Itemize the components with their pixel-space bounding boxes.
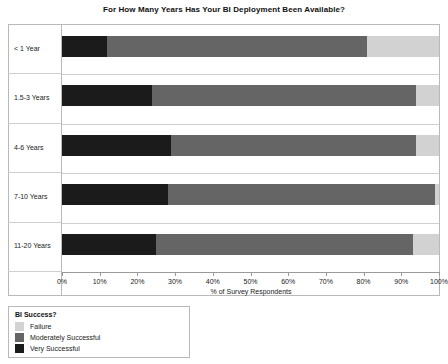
legend-swatch-very-successful — [15, 344, 24, 353]
x-tick — [137, 272, 138, 276]
x-tick-label: 30% — [168, 278, 182, 285]
x-tick — [439, 272, 440, 276]
x-tick — [213, 272, 214, 276]
bar-segment-failure[interactable] — [416, 85, 439, 106]
bar-row — [62, 25, 439, 74]
x-tick-label: 0% — [57, 278, 67, 285]
legend-item-very-successful[interactable]: Very Successful — [15, 343, 183, 354]
bar-segment-moderately-successful[interactable] — [156, 234, 412, 255]
x-tick-label: 70% — [319, 278, 333, 285]
legend-swatch-failure — [15, 322, 24, 331]
x-tick — [62, 272, 63, 276]
x-tick-label: 100% — [430, 278, 448, 285]
bar-segment-moderately-successful[interactable] — [152, 85, 416, 106]
legend-swatch-moderately-successful — [15, 333, 24, 342]
category-label-1: < 1 Year — [14, 45, 40, 52]
x-tick-label: 90% — [394, 278, 408, 285]
stacked-bar[interactable] — [62, 135, 439, 156]
bar-segment-failure[interactable] — [413, 234, 439, 255]
bar-segment-very-successful[interactable] — [62, 234, 156, 255]
bar-segment-very-successful[interactable] — [62, 135, 171, 156]
stacked-bar[interactable] — [62, 85, 439, 106]
category-label-3: 4-6 Years — [14, 144, 44, 151]
x-tick — [288, 272, 289, 276]
bar-row — [62, 173, 439, 222]
bar-segment-moderately-successful[interactable] — [107, 36, 367, 57]
bar-segment-failure[interactable] — [367, 36, 439, 57]
category-label-4: 7-10 Years — [14, 193, 47, 200]
bar-row — [62, 124, 439, 173]
legend-label-moderately-successful: Moderately Successful — [30, 334, 100, 341]
bar-segment-very-successful[interactable] — [62, 85, 152, 106]
x-tick-label: 80% — [357, 278, 371, 285]
chart-title: For How Many Years Has Your BI Deploymen… — [0, 5, 448, 14]
category-label-2: 1.5-3 Years — [14, 94, 49, 101]
stacked-bar[interactable] — [62, 36, 439, 57]
bar-row — [62, 74, 439, 123]
bar-segment-failure[interactable] — [435, 184, 439, 205]
bar-row — [62, 223, 439, 272]
bar-segment-failure[interactable] — [416, 135, 439, 156]
x-tick — [100, 272, 101, 276]
stacked-bar[interactable] — [62, 234, 439, 255]
bar-segment-very-successful[interactable] — [62, 36, 107, 57]
x-tick-label: 10% — [93, 278, 107, 285]
bar-segment-very-successful[interactable] — [62, 184, 168, 205]
bar-segment-moderately-successful[interactable] — [168, 184, 436, 205]
legend: BI Success? Failure Moderately Successfu… — [8, 306, 190, 358]
stacked-bar[interactable] — [62, 184, 439, 205]
x-tick — [401, 272, 402, 276]
x-tick — [364, 272, 365, 276]
x-axis-title: % of Survey Respondents — [62, 288, 440, 295]
plot-area — [62, 25, 439, 272]
legend-item-failure[interactable]: Failure — [15, 321, 183, 332]
category-label-strip: < 1 Year1.5-3 Years4-6 Years7-10 Years11… — [8, 24, 62, 296]
x-tick — [251, 272, 252, 276]
legend-label-very-successful: Very Successful — [30, 345, 80, 352]
legend-item-moderately-successful[interactable]: Moderately Successful — [15, 332, 183, 343]
bar-segment-moderately-successful[interactable] — [171, 135, 416, 156]
x-tick-label: 20% — [130, 278, 144, 285]
x-tick — [175, 272, 176, 276]
legend-label-failure: Failure — [30, 323, 51, 330]
x-tick — [326, 272, 327, 276]
x-tick-label: 60% — [281, 278, 295, 285]
legend-title: BI Success? — [15, 311, 183, 318]
category-label-5: 11-20 Years — [14, 242, 51, 249]
x-tick-label: 40% — [206, 278, 220, 285]
x-tick-label: 50% — [243, 278, 257, 285]
